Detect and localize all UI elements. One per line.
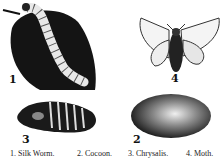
caption-moth: 4. Moth. <box>186 149 213 158</box>
caption-silk-worm: 1. Silk Worm. <box>10 149 55 158</box>
moth-illustration <box>111 0 222 90</box>
figure-number: 2 <box>133 133 141 146</box>
figure-number: 4 <box>171 72 179 85</box>
figure-chrysalis: 3 <box>0 90 111 148</box>
figure-moth: 4 <box>111 0 222 90</box>
figure-number: 1 <box>9 73 17 86</box>
figure-number: 3 <box>22 133 30 146</box>
figure-cocoon: 2 <box>111 90 222 148</box>
caption-cocoon: 2. Cocoon. <box>77 149 112 158</box>
chrysalis-illustration <box>0 90 111 148</box>
caption-chrysalis: 3. Chrysalis. <box>128 149 168 158</box>
cocoon-illustration <box>111 90 222 148</box>
figure-silk-worm: 1 <box>0 0 111 90</box>
